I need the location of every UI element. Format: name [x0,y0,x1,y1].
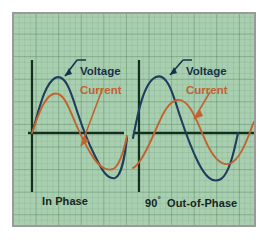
voltage-label-in-phase: Voltage [80,65,121,77]
panel-out-of-phase [133,60,254,192]
panel-in-phase [28,60,127,192]
caption-in-phase: In Phase [42,195,88,207]
current-label-in-phase: Current [80,84,122,96]
graph-frame: Voltage Current Voltage Current In Phase… [12,12,256,227]
caption-out-of-phase: 90° Out-of-Phase [145,195,237,209]
phase-diagram-figure: Voltage Current Voltage Current In Phase… [0,0,268,249]
voltage-label-out-of-phase: Voltage [186,65,227,77]
current-waveform-in-phase [32,93,127,169]
degree-symbol-icon: ° [157,195,160,204]
caption-out-of-phase-text: Out-of-Phase [167,197,237,209]
current-label-out-of-phase: Current [186,84,228,96]
waveform-plot [14,14,254,225]
caption-degrees-value: 90 [145,197,157,209]
